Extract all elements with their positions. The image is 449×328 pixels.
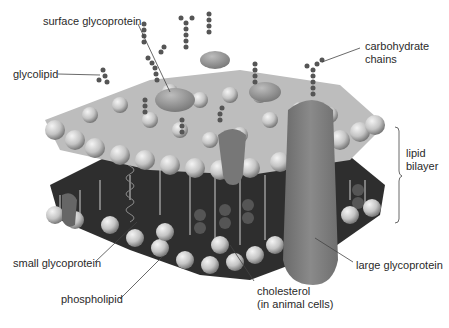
label-lipid-bilayer-line1: lipid (406, 147, 426, 159)
label-carbohydrate-chains-line2: chains (365, 53, 397, 65)
label-carbohydrate-chains-line1: carbohydrate (365, 40, 429, 52)
label-small-glycoprotein: small glycoprotein (13, 257, 101, 269)
label-lipid-bilayer-line2: bilayer (406, 160, 438, 172)
label-surface-glycoprotein: surface glycoprotein (43, 15, 141, 27)
label-phospholipid: phospholipid (61, 293, 123, 305)
label-large-glycoprotein: large glycoprotein (356, 259, 443, 271)
label-cholesterol-line1: cholesterol (257, 285, 310, 297)
label-cholesterol-line2: (in animal cells) (257, 298, 333, 310)
large-glycoprotein-shape (283, 100, 338, 285)
label-glycolipid: glycolipid (13, 68, 58, 80)
